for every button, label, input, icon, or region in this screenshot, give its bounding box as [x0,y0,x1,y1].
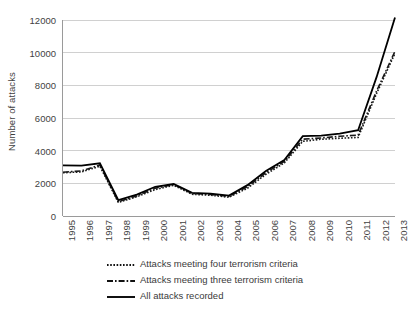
y-tick-label: 10000 [30,47,56,58]
legend-label: All attacks recorded [140,290,223,301]
x-tick-label: 2013 [398,220,409,241]
x-tick-label: 2008 [306,220,317,241]
legend-swatch-icon [106,257,136,269]
x-tick-label: 2000 [158,220,169,241]
x-tick-label: 2005 [250,220,261,241]
x-tick-label: 1996 [84,220,95,241]
series-line-1 [63,51,395,201]
x-tick-label: 2001 [177,220,188,241]
x-tick-label: 2010 [343,220,354,241]
legend-item[interactable]: Attacks meeting four terrorism criteria [106,255,406,271]
legend-item[interactable]: Attacks meeting three terrorism criteria [106,271,406,287]
y-tick-label: 6000 [35,113,56,124]
line-chart: Number of attacks 0200040006000800010000… [0,0,411,313]
legend-label: Attacks meeting four terrorism criteria [140,258,298,269]
y-tick-label: 8000 [35,80,56,91]
series-line-0 [63,53,395,202]
y-tick-label: 0 [51,211,56,222]
y-tick-label: 2000 [35,178,56,189]
legend-item[interactable]: All attacks recorded [106,287,406,303]
x-tick-label: 2009 [324,220,335,241]
series-line-2 [63,18,395,201]
series-lines [63,18,395,203]
chart-legend: Attacks meeting four terrorism criteriaA… [106,255,406,303]
x-tick-label: 2003 [214,220,225,241]
x-tick-label: 2006 [269,220,280,241]
plot-area [62,20,395,216]
x-tick-label: 1995 [66,220,77,241]
x-tick-label: 2011 [361,220,372,240]
x-tick-label: 2002 [195,220,206,241]
x-tick-label: 2004 [232,220,243,241]
x-tick-label: 2007 [287,220,298,241]
y-tick-label: 4000 [35,145,56,156]
x-tick-label: 2012 [380,220,391,241]
legend-swatch-icon [106,273,136,285]
x-tick-label: 1999 [140,220,151,241]
gridlines [63,20,395,216]
y-tick-label: 12000 [30,15,56,26]
y-axis-tick-labels: 020004000600080001000012000 [20,14,60,222]
x-tick-label: 1997 [103,220,114,241]
plot-svg [63,20,395,216]
x-tick-label: 1998 [121,220,132,241]
y-axis-title: Number of attacks [0,0,22,222]
legend-swatch-icon [106,289,136,301]
y-axis-title-text: Number of attacks [6,72,17,151]
legend-label: Attacks meeting three terrorism criteria [140,274,303,285]
x-axis-tick-labels: 1995199619971998199920002001200220032004… [62,218,394,260]
